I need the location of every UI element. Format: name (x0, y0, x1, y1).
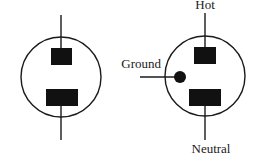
neutral-slot (189, 89, 221, 106)
ground-hole (174, 71, 186, 83)
right-outlet: Hot Ground Neutral (121, 0, 245, 156)
neutral-label: Neutral (192, 141, 231, 156)
ground-label: Ground (121, 56, 161, 71)
outlet-diagram: Hot Ground Neutral (0, 0, 254, 166)
left-bottom-slot (46, 89, 78, 106)
left-outlet (21, 15, 101, 140)
hot-slot (194, 47, 216, 64)
hot-label: Hot (195, 0, 215, 12)
left-top-slot (51, 48, 72, 65)
